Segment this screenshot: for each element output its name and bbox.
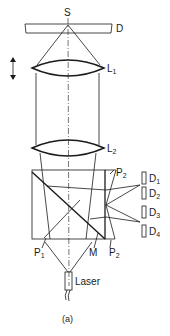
label-d3: D3 <box>149 207 160 219</box>
double-arrow-vertical-icon <box>10 57 16 80</box>
ray-right-top <box>68 25 100 65</box>
caption: (a) <box>62 314 73 324</box>
label-d2: D2 <box>149 188 160 200</box>
label-lens1: L1 <box>107 63 117 75</box>
detector-d3 <box>142 206 146 218</box>
label-d4: D4 <box>149 226 160 238</box>
lens-l2 <box>32 140 104 156</box>
label-prism1: P1 <box>34 247 45 259</box>
ray-left-top <box>37 25 68 65</box>
laser-diode <box>65 272 72 290</box>
label-source: S <box>64 7 71 18</box>
detector-d4 <box>142 225 146 237</box>
prism-assembly <box>32 170 116 239</box>
label-lens2: L2 <box>107 143 117 155</box>
label-prism2-top: P2 <box>116 167 127 179</box>
label-laser: Laser <box>75 276 101 287</box>
optical-axis <box>68 18 69 286</box>
label-disk: D <box>116 23 123 34</box>
label-mirror: M <box>89 247 97 258</box>
detector-d2 <box>142 187 146 199</box>
label-d1: D1 <box>149 173 160 185</box>
label-prism2-bottom: P2 <box>109 247 120 259</box>
detector-d1 <box>142 172 146 184</box>
optical-pickup-diagram: S D L1 L2 P2 D1 D2 D3 D4 P1 M P2 Laser (… <box>0 0 170 336</box>
